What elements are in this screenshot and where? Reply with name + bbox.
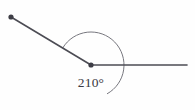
upper-left-ray-endpoint-dot [8,14,13,19]
angle-measure-label: 210° [78,75,104,90]
geometry-figure-canvas: 210° [0,0,195,110]
angle-diagram-svg: 210° [0,0,195,110]
upper-left-ray [11,17,91,65]
angle-vertex-dot [88,62,93,67]
